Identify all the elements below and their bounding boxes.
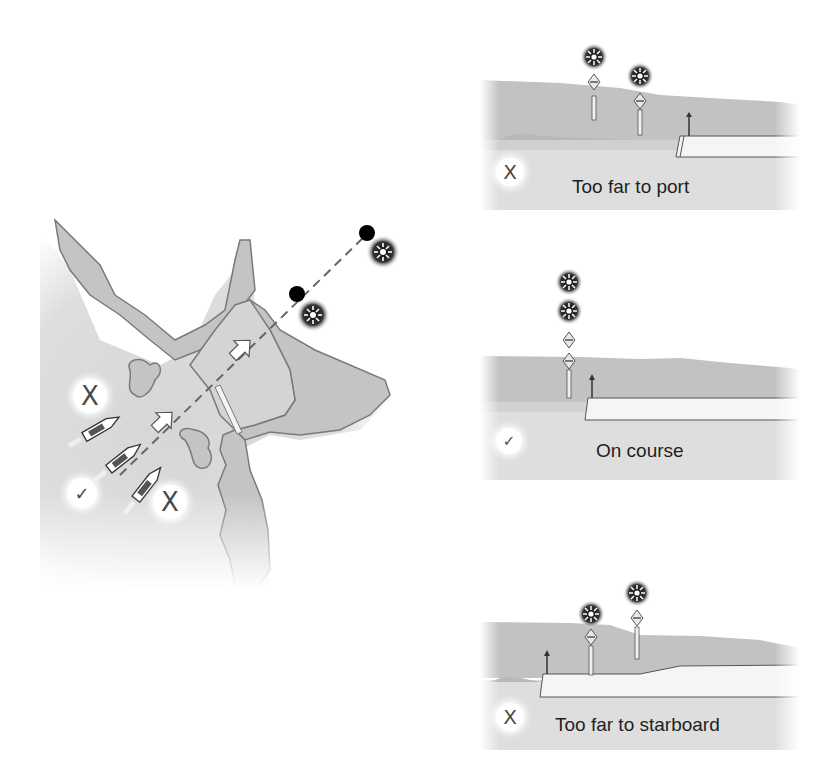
x-icon: X [503,705,517,729]
panel-starboard-status: X [496,703,524,731]
checkmark-icon: ✓ [74,483,89,504]
x-icon: X [161,487,179,517]
x-icon: X [503,160,517,184]
correct-mark-bottom-left: ✓ [67,478,97,508]
wrong-mark-bottom-right: X [153,485,187,519]
panel-on-course-caption: On course [596,440,684,462]
wrong-mark-top-left: X [73,379,107,413]
x-icon: X [81,381,99,411]
panel-port-status: X [496,158,524,186]
panel-port-caption: Too far to port [572,176,689,198]
panel-starboard-caption: Too far to starboard [555,714,720,736]
checkmark-icon: ✓ [503,432,516,450]
panel-on-course-status: ✓ [496,428,522,454]
